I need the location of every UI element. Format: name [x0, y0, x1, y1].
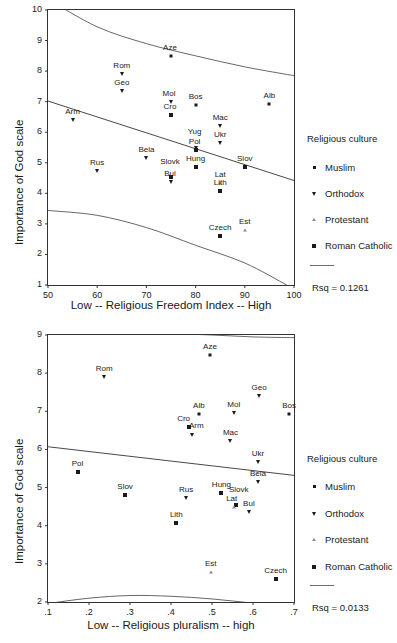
y-tick-label: 7: [16, 406, 42, 415]
y-tick-label: 9: [16, 36, 42, 45]
data-point-label: Rom: [96, 365, 113, 373]
x-tick-label: .5: [197, 608, 227, 617]
legend-label: Muslim: [325, 163, 355, 173]
legend-label: Orthodox: [325, 509, 364, 519]
large-square-marker[interactable]: [219, 491, 223, 495]
large-square-marker[interactable]: [274, 577, 278, 581]
x-tick-label: 100: [279, 291, 309, 300]
x-axis-title-top: Low -- Religious Freedom Index -- High: [47, 300, 295, 312]
data-point-label: Pol: [72, 460, 84, 468]
large-square-marker[interactable]: [218, 189, 222, 193]
triangle-down-marker[interactable]: [256, 460, 260, 464]
legend-label: Roman Catholic: [325, 241, 393, 251]
triangle-down-marker[interactable]: [102, 375, 106, 379]
legend-item-orthodox[interactable]: Orthodox: [307, 189, 364, 199]
x-tick-label: .7: [279, 608, 309, 617]
y-tick-label: 9: [16, 330, 42, 339]
y-axis-title-bottom: Importance of God scale: [14, 439, 26, 564]
large-square-marker: [307, 565, 321, 569]
triangle-down-marker[interactable]: [184, 496, 188, 500]
legend-label: Protestant: [325, 535, 368, 545]
data-point-label: Rus: [179, 486, 193, 494]
triangle-down-marker[interactable]: [169, 180, 173, 184]
x-tick-label: .1: [33, 608, 63, 617]
small-square-marker[interactable]: [288, 413, 291, 416]
data-point-label: Arm: [65, 108, 80, 116]
y-tick-label: 8: [16, 66, 42, 75]
small-square-marker[interactable]: [197, 412, 200, 415]
data-point-label: Czech: [264, 567, 287, 575]
data-point-label: Slovk: [229, 486, 249, 494]
y-tick-label: 2: [16, 597, 42, 606]
data-point-label: Arm: [189, 422, 204, 430]
triangle-down-marker[interactable]: [256, 480, 260, 484]
legend-title: Religious culture: [307, 454, 377, 464]
regression-line-swatch: [310, 265, 334, 266]
triangle-down-marker[interactable]: [257, 394, 261, 398]
large-square-marker[interactable]: [174, 521, 178, 525]
data-point-label: Slov: [237, 155, 253, 163]
data-point-label: Bos: [189, 93, 203, 101]
triangle-down-marker[interactable]: [232, 411, 236, 415]
triangle-down-marker[interactable]: [218, 141, 222, 145]
small-triangle-up-marker[interactable]: [232, 506, 236, 509]
large-square-marker[interactable]: [169, 113, 173, 117]
y-tick-label: 10: [16, 5, 42, 14]
small-square-marker[interactable]: [208, 354, 211, 357]
small-square-marker[interactable]: [170, 54, 173, 57]
data-point-label: Ukr: [252, 450, 264, 458]
legend-label: Protestant: [325, 215, 368, 225]
legend-item-roman-catholic[interactable]: Roman Catholic: [307, 241, 393, 251]
legend-label: Orthodox: [325, 189, 364, 199]
legend-item-protestant[interactable]: Protestant: [307, 535, 368, 545]
large-square-marker[interactable]: [123, 493, 127, 497]
small-square-marker: [307, 485, 321, 488]
large-square-marker[interactable]: [194, 148, 198, 152]
large-square-marker[interactable]: [243, 165, 247, 169]
triangle-down-marker[interactable]: [71, 118, 75, 122]
triangle-down-marker[interactable]: [228, 439, 232, 443]
data-point-label: Bul: [243, 500, 255, 508]
legend-title: Religious culture: [307, 134, 377, 144]
legend-item-muslim[interactable]: Muslim: [307, 482, 355, 492]
data-point-label: Aze: [203, 343, 217, 351]
small-square-marker[interactable]: [194, 103, 197, 106]
legend-item-roman-catholic[interactable]: Roman Catholic: [307, 562, 393, 572]
triangle-down-marker[interactable]: [218, 124, 222, 128]
legend-item-muslim[interactable]: Muslim: [307, 163, 355, 173]
small-triangle-up-marker[interactable]: [243, 229, 247, 232]
triangle-down-marker[interactable]: [190, 433, 194, 437]
large-square-marker[interactable]: [218, 234, 222, 238]
data-point-label: Hung: [186, 155, 205, 163]
y-tick-label: 8: [16, 368, 42, 377]
upper-confidence-band: [48, 0, 294, 76]
small-triangle-up-marker: [307, 538, 321, 541]
triangle-down-marker: [307, 512, 321, 516]
y-tick-label: 7: [16, 97, 42, 106]
data-point-label: Lat: [226, 495, 237, 503]
triangle-down-marker[interactable]: [95, 169, 99, 173]
data-point-label: Bela: [138, 146, 154, 154]
data-point-label: Alb: [193, 402, 205, 410]
data-point-label: Bela: [250, 470, 266, 478]
triangle-down-marker[interactable]: [247, 510, 251, 514]
triangle-down-marker[interactable]: [120, 72, 124, 76]
small-square-marker[interactable]: [268, 103, 271, 106]
triangle-down-marker: [307, 192, 321, 196]
data-point-label: Mol: [227, 401, 240, 409]
data-point-label: Aze: [163, 44, 177, 52]
data-point-label: Alb: [264, 92, 276, 100]
x-tick-label: .4: [156, 608, 186, 617]
large-square-marker[interactable]: [194, 165, 198, 169]
data-point-label: Pol: [189, 138, 201, 146]
legend-item-orthodox[interactable]: Orthodox: [307, 509, 364, 519]
data-point-label: Lith: [214, 179, 227, 187]
small-triangle-up-marker[interactable]: [209, 571, 213, 574]
legend-label: Roman Catholic: [325, 562, 393, 572]
triangle-down-marker[interactable]: [120, 89, 124, 93]
legend-item-protestant[interactable]: Protestant: [307, 215, 368, 225]
figure-page: AzeRomGeoAlbBosMolCroArmMacUkrYugPolBela…: [0, 0, 397, 643]
triangle-down-marker[interactable]: [144, 156, 148, 160]
data-point-label: Mac: [213, 114, 228, 122]
large-square-marker[interactable]: [76, 470, 80, 474]
